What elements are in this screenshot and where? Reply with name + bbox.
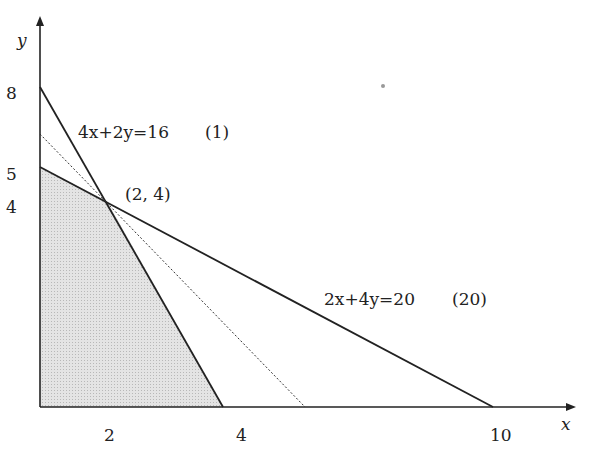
y-tick-5: 5	[6, 164, 17, 184]
intersection-label: (2, 4)	[125, 184, 171, 204]
x-tick-10: 10	[490, 425, 512, 445]
constraint-1-tag: (1)	[205, 122, 229, 142]
x-axis-arrow-icon	[566, 403, 576, 411]
constraint-2-equation: 2x+4y=20	[324, 289, 415, 309]
constraint-2-tag: (20)	[452, 289, 487, 309]
y-tick-4: 4	[6, 197, 17, 217]
y-axis-arrow-icon	[36, 16, 44, 26]
x-tick-2: 2	[104, 425, 115, 445]
x-tick-4: 4	[236, 425, 247, 445]
constraint-1-equation: 4x+2y=16	[78, 122, 169, 142]
y-tick-8: 8	[6, 83, 17, 103]
y-axis-label: y	[16, 30, 27, 50]
stray-dot	[381, 84, 385, 88]
lp-diagram: y x 8 5 4 2 4 10 4x+2y=16 (1) 2x+4y=20 (…	[0, 0, 591, 468]
x-axis-label: x	[561, 414, 571, 434]
